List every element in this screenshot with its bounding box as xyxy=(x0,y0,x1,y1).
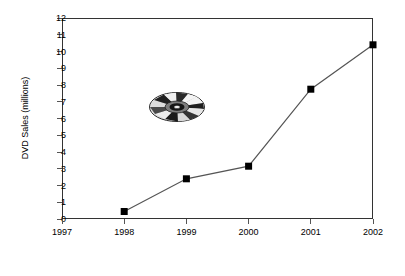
y-tick-label: 9 xyxy=(40,63,66,73)
y-tick-label: 4 xyxy=(40,147,66,157)
y-tick-label: 12 xyxy=(40,13,66,23)
x-tick-label: 2001 xyxy=(291,227,331,238)
y-tick-label: 10 xyxy=(40,47,66,57)
x-tick-mark xyxy=(62,219,63,224)
x-tick-mark xyxy=(310,219,311,224)
x-tick-label: 1997 xyxy=(42,227,82,238)
x-tick-label: 2002 xyxy=(353,227,393,238)
dvd-disc-icon xyxy=(149,91,205,123)
x-tick-mark xyxy=(186,219,187,224)
y-tick-label: 3 xyxy=(40,164,66,174)
y-tick-label: 2 xyxy=(40,181,66,191)
y-tick-label: 6 xyxy=(40,114,66,124)
x-tick-label: 1998 xyxy=(104,227,144,238)
chart-container: DVD Sales (millions) 0123456789101112 19… xyxy=(0,0,405,276)
x-tick-mark xyxy=(373,219,374,224)
x-tick-mark xyxy=(248,219,249,224)
x-tick-label: 1999 xyxy=(166,227,206,238)
y-tick-label: 7 xyxy=(40,97,66,107)
y-tick-label: 11 xyxy=(40,30,66,40)
x-tick-mark xyxy=(124,219,125,224)
plot-area xyxy=(62,18,373,219)
x-tick-label: 2000 xyxy=(229,227,269,238)
y-tick-label: 1 xyxy=(40,197,66,207)
y-tick-label: 8 xyxy=(40,80,66,90)
y-axis-title: DVD Sales (millions) xyxy=(18,8,32,228)
y-tick-label: 5 xyxy=(40,130,66,140)
